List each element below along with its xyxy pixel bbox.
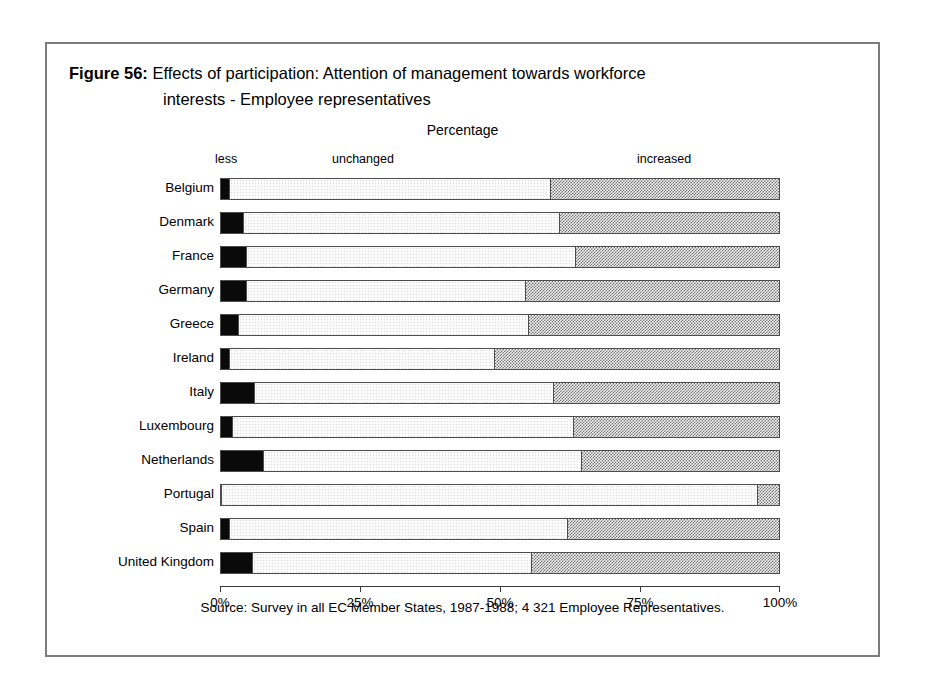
figure-frame: Figure 56: Effects of participation: Att… [45,42,880,657]
bar-segment-increased [757,485,779,505]
bar-row: Luxembourg [220,416,780,438]
bar-segment-unchanged [254,383,553,403]
bar-row: Spain [220,518,780,540]
legend-label-less: less [215,152,237,166]
bar-category-label: Italy [24,384,214,399]
bar-row: Netherlands [220,450,780,472]
bar-category-label: Portugal [24,486,214,501]
bar-segment-less [221,451,263,471]
tick-mark [360,586,361,592]
bar-segment-unchanged [246,281,525,301]
bar-segment-increased [575,247,779,267]
bar-row: Germany [220,280,780,302]
title-line-2: interests - Employee representatives [69,86,849,112]
figure-title-text-1: Effects of participation: Attention of m… [152,64,645,82]
tick-mark [640,586,641,592]
bar-segment-less [221,213,243,233]
bar-segment-unchanged [229,349,494,369]
bar-segment-increased [567,519,779,539]
bar-track [220,552,780,574]
bar-segment-unchanged [229,179,550,199]
bar-segment-less [221,349,229,369]
bar-segment-increased [494,349,779,369]
bar-category-label: Spain [24,520,214,535]
bar-segment-unchanged [232,417,572,437]
bar-row: Portugal [220,484,780,506]
bar-segment-less [221,179,229,199]
bar-segment-less [221,315,238,335]
axis-caption: Percentage [47,122,878,138]
plot-area: less unchanged increased BelgiumDenmarkF… [220,174,780,584]
title-line-1: Figure 56: Effects of participation: Att… [69,60,849,86]
bar-segment-unchanged [252,553,531,573]
bar-track [220,178,780,200]
bar-segment-increased [525,281,779,301]
bar-track [220,450,780,472]
bar-track [220,382,780,404]
bar-category-label: Greece [24,316,214,331]
figure-title-text-2: interests - Employee representatives [163,90,431,108]
bar-row: Belgium [220,178,780,200]
bar-category-label: Denmark [24,214,214,229]
bar-track [220,348,780,370]
bar-segment-less [221,417,232,437]
bar-row: United Kingdom [220,552,780,574]
bar-segment-unchanged [238,315,528,335]
bar-track [220,280,780,302]
bar-row: France [220,246,780,268]
source-note: Source: Survey in all EC Member States, … [47,600,878,615]
tick-mark [220,586,221,592]
bar-segment-unchanged [243,213,558,233]
bar-segment-increased [573,417,779,437]
legend-label-increased: increased [637,152,691,166]
bar-category-label: Netherlands [24,452,214,467]
bar-category-label: Belgium [24,180,214,195]
bar-segment-unchanged [263,451,581,471]
tick-mark [500,586,501,592]
bar-segment-less [221,281,246,301]
bar-segment-increased [528,315,779,335]
bar-segment-increased [531,553,779,573]
bar-segment-less [221,247,246,267]
figure-page: Figure 56: Effects of participation: Att… [0,0,927,696]
bar-category-label: Ireland [24,350,214,365]
bar-category-label: Luxembourg [24,418,214,433]
bar-segment-increased [550,179,779,199]
bar-category-label: France [24,248,214,263]
tick-mark [779,586,780,592]
bar-category-label: Germany [24,282,214,297]
bar-track [220,484,780,506]
bar-segment-increased [553,383,779,403]
bar-segment-increased [581,451,779,471]
bar-segment-less [221,519,229,539]
bar-track [220,314,780,336]
bar-track [220,212,780,234]
bar-segment-unchanged [246,247,575,267]
bar-segment-less [221,383,254,403]
bar-segment-less [221,553,252,573]
bar-track [220,518,780,540]
bar-category-label: United Kingdom [24,554,214,569]
bar-track [220,246,780,268]
bar-segment-unchanged [221,485,757,505]
bar-row: Italy [220,382,780,404]
bar-row: Ireland [220,348,780,370]
bar-segment-increased [559,213,779,233]
bar-track [220,416,780,438]
figure-title-block: Figure 56: Effects of participation: Att… [69,60,849,112]
bar-row: Greece [220,314,780,336]
bar-row: Denmark [220,212,780,234]
bar-segment-unchanged [229,519,567,539]
legend-label-unchanged: unchanged [332,152,394,166]
figure-number-label: Figure 56: [69,64,148,82]
